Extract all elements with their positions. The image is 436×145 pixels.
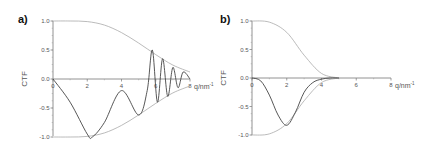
ctf-curve <box>252 78 339 125</box>
y-tick-label: -0.5 <box>238 104 249 110</box>
envelope-curve <box>53 21 190 72</box>
panel-b: b)1.00.50.0-0.5-1.002468CTFq/nm-1 <box>219 13 415 138</box>
y-tick-label: 0.0 <box>240 75 249 81</box>
y-tick-label: -1.0 <box>39 134 50 140</box>
y-tick-label: 0.0 <box>41 76 50 82</box>
y-tick-label: -0.5 <box>39 105 50 111</box>
panel-label: a) <box>18 13 28 25</box>
y-tick-label: 0.5 <box>240 47 249 53</box>
x-tick-label: 4 <box>120 83 124 89</box>
envelope-curve <box>252 21 339 78</box>
x-axis-label: q/nm-1 <box>194 82 214 91</box>
y-axis-label: CTF <box>20 71 29 87</box>
y-axis-label: CTF <box>219 70 228 86</box>
panel-label: b) <box>220 13 231 25</box>
x-tick-label: 2 <box>285 82 289 88</box>
chart-canvas: a)1.00.50.0-0.5-1.002468CTFq/nm-1 b)1.00… <box>0 0 436 145</box>
envelope-curve <box>53 86 190 137</box>
x-tick-label: 8 <box>389 82 393 88</box>
panel-a: a)1.00.50.0-0.5-1.002468CTFq/nm-1 <box>18 13 214 140</box>
x-tick-label: 6 <box>355 82 359 88</box>
x-axis-label: q/nm-1 <box>395 81 415 90</box>
y-tick-label: 1.0 <box>240 18 249 24</box>
x-tick-label: 2 <box>86 83 90 89</box>
y-tick-label: 1.0 <box>41 18 50 24</box>
y-tick-label: 0.5 <box>41 47 50 53</box>
x-tick-label: 0 <box>51 83 55 89</box>
x-tick-label: 0 <box>250 82 254 88</box>
y-tick-label: -1.0 <box>238 132 249 138</box>
